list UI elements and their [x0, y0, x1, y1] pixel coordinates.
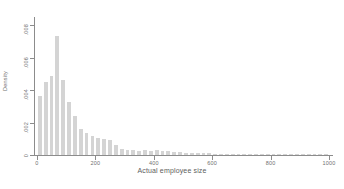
y-tick-label: .006	[23, 57, 29, 69]
y-axis-line	[34, 17, 35, 156]
y-tick-mark	[30, 58, 34, 59]
y-tick-mark	[30, 25, 34, 26]
y-tick-label: .002	[23, 122, 29, 134]
x-tick-label: 200	[90, 160, 100, 166]
x-tick-label: 400	[149, 160, 159, 166]
histogram-figure: 0.002.004.006.008 02004006008001000 Dens…	[0, 0, 344, 189]
x-axis-title: Actual employee size	[0, 167, 344, 174]
y-tick-mark	[30, 155, 34, 156]
y-tick-label: .004	[23, 89, 29, 101]
x-tick-label: 1000	[323, 160, 336, 166]
plot-area	[34, 17, 332, 155]
y-tick-mark	[30, 90, 34, 91]
y-tick-label: .008	[23, 24, 29, 36]
y-axis-title: Density	[2, 71, 8, 91]
histogram-bars	[34, 17, 332, 155]
x-tick-label: 0	[35, 160, 38, 166]
x-tick-label: 800	[266, 160, 276, 166]
figure-caption	[46, 181, 306, 189]
y-tick-mark	[30, 123, 34, 124]
x-axis-line	[34, 155, 333, 156]
y-tick-label: 0	[23, 154, 29, 157]
x-tick-label: 600	[207, 160, 217, 166]
